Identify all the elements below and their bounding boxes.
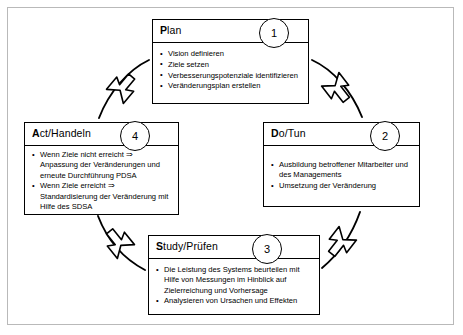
bullet-list-act: Wenn Ziele nicht erreicht ⇒ Anpassung de… bbox=[32, 150, 172, 212]
phase-body-study: Die Leistung des Systems beurteilen mit … bbox=[149, 259, 319, 311]
list-item: Vision definieren bbox=[160, 49, 302, 59]
phase-header-act: Act/Handeln bbox=[25, 123, 178, 146]
phase-title-rest-plan: lan bbox=[167, 24, 181, 36]
list-item: Umsetzung der Veränderung bbox=[271, 181, 413, 191]
phase-box-study[interactable]: Study/Prüfen Die Leistung des Systems be… bbox=[148, 235, 320, 315]
phase-body-plan: Vision definieren Ziele setzen Verbesser… bbox=[153, 43, 308, 96]
list-item: Ziele setzen bbox=[160, 60, 302, 70]
list-item: Analysieren von Ursachen und Effekten bbox=[156, 296, 313, 306]
list-item: Veränderungsplan erstellen bbox=[160, 81, 302, 91]
phase-title-do: Do/Tun bbox=[271, 127, 306, 139]
list-item: Die Leistung des Systems beurteilen mit … bbox=[156, 265, 313, 296]
list-item: Ausbildung betroffener Mitarbeiter und d… bbox=[271, 160, 413, 181]
phase-header-study: Study/Prüfen bbox=[149, 236, 319, 259]
phase-body-act: Wenn Ziele nicht erreicht ⇒ Anpassung de… bbox=[25, 146, 178, 217]
phase-title-study: Study/Prüfen bbox=[156, 240, 218, 252]
phase-box-act[interactable]: Act/Handeln Wenn Ziele nicht erreicht ⇒ … bbox=[24, 122, 179, 215]
step-number-badge-study: 3 bbox=[252, 234, 282, 264]
step-number-badge-do: 2 bbox=[370, 121, 400, 151]
step-number-badge-plan: 1 bbox=[259, 18, 289, 48]
phase-body-do: Ausbildung betroffener Mitarbeiter und d… bbox=[264, 146, 419, 196]
step-number-badge-act: 4 bbox=[120, 121, 150, 151]
phase-title-rest-study: tudy/Prüfen bbox=[163, 240, 218, 252]
list-item: Wenn Ziele nicht erreicht ⇒ Anpassung de… bbox=[32, 150, 172, 181]
phase-title-act: Act/Handeln bbox=[32, 127, 91, 139]
phase-title-rest-do: o/Tun bbox=[279, 127, 306, 139]
bullet-list-study: Die Leistung des Systems beurteilen mit … bbox=[156, 265, 313, 307]
bullet-list-do: Ausbildung betroffener Mitarbeiter und d… bbox=[271, 160, 413, 191]
list-item: Wenn Ziele erreicht ⇒ Standardisierung d… bbox=[32, 181, 172, 212]
list-item: Verbesserungspotenziale identifizieren bbox=[160, 71, 302, 81]
phase-title-plan: Plan bbox=[160, 24, 181, 36]
bullet-list-plan: Vision definieren Ziele setzen Verbesser… bbox=[160, 49, 302, 92]
phase-title-cap-do: D bbox=[271, 127, 279, 139]
phase-title-rest-act: ct/Handeln bbox=[40, 127, 91, 139]
phase-title-cap-act: A bbox=[32, 127, 40, 139]
pdsa-cycle-diagram: Plan Vision definieren Ziele setzen Verb… bbox=[0, 0, 463, 335]
